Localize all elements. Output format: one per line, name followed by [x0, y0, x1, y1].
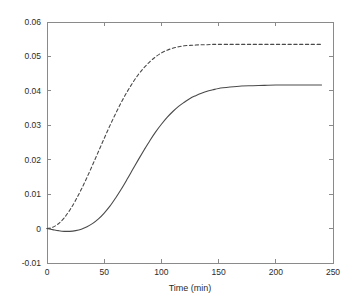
figure-container: 050100150200250 -0.0100.010.020.030.040.… [0, 0, 357, 301]
x-tick-label: 50 [99, 267, 109, 277]
x-tick-label: 200 [269, 267, 283, 277]
line-chart: 050100150200250 -0.0100.010.020.030.040.… [0, 0, 357, 301]
x-axis-title: Time (min) [169, 283, 212, 293]
y-tick-label: 0 [36, 224, 41, 234]
y-tick-label: 0.01 [24, 189, 41, 199]
x-tick-label: 0 [45, 267, 50, 277]
y-tick-label: 0.05 [24, 51, 41, 61]
x-tick-label: 100 [154, 267, 168, 277]
x-tick-label: 250 [326, 267, 340, 277]
y-tick-label: 0.04 [24, 86, 41, 96]
y-tick-label: 0.03 [24, 120, 41, 130]
y-tick-label: -0.01 [22, 258, 42, 268]
y-tick-label: 0.02 [24, 155, 41, 165]
chart-background [0, 0, 357, 301]
x-tick-label: 150 [212, 267, 226, 277]
y-tick-label: 0.06 [24, 17, 41, 27]
